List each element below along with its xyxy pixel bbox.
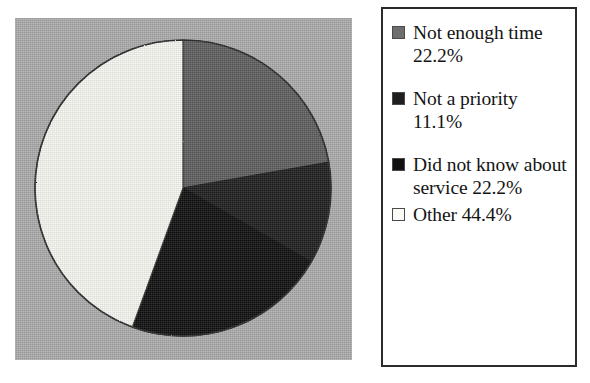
legend-label-not-enough-time: Not enough time 22.2% xyxy=(413,21,569,67)
pie-chart-plot-area xyxy=(15,18,352,360)
legend-label-other: Other 44.4% xyxy=(413,203,512,226)
legend-label-did-not-know-about-service: Did not know about service 22.2% xyxy=(413,153,569,199)
pie-chart-svg xyxy=(15,18,352,360)
chart-legend: Not enough time 22.2% Not a priority 11.… xyxy=(381,7,577,367)
legend-item-not-a-priority[interactable]: Not a priority 11.1% xyxy=(392,87,569,133)
legend-swatch-icon-not-enough-time xyxy=(392,26,405,39)
legend-item-list: Not enough time 22.2% Not a priority 11.… xyxy=(392,21,569,246)
legend-label-not-a-priority: Not a priority 11.1% xyxy=(413,87,569,133)
legend-item-other[interactable]: Other 44.4% xyxy=(392,203,569,226)
legend-swatch-icon-other xyxy=(392,208,405,221)
legend-item-not-enough-time[interactable]: Not enough time 22.2% xyxy=(392,21,569,67)
legend-item-did-not-know-about-service[interactable]: Did not know about service 22.2% xyxy=(392,153,569,199)
legend-swatch-icon-did-not-know-about-service xyxy=(392,158,405,171)
legend-swatch-icon-not-a-priority xyxy=(392,92,405,105)
pie-slices-group xyxy=(35,40,331,336)
